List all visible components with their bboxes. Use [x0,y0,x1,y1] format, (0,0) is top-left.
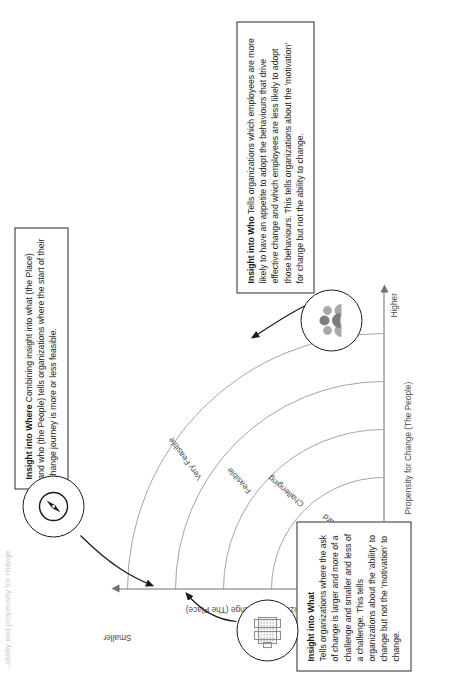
connector-who [252,305,305,337]
diagram-canvas: ...ability and propensity for change Ver… [0,0,453,685]
people-icon [310,299,352,341]
compass-badge[interactable] [22,475,84,537]
building-badge[interactable] [236,599,298,661]
connector-where [80,535,152,585]
callout-connectors [0,0,453,685]
building-icon [246,609,288,651]
compass-icon [33,486,73,526]
people-badge[interactable] [300,289,362,351]
connector-what [186,593,236,621]
